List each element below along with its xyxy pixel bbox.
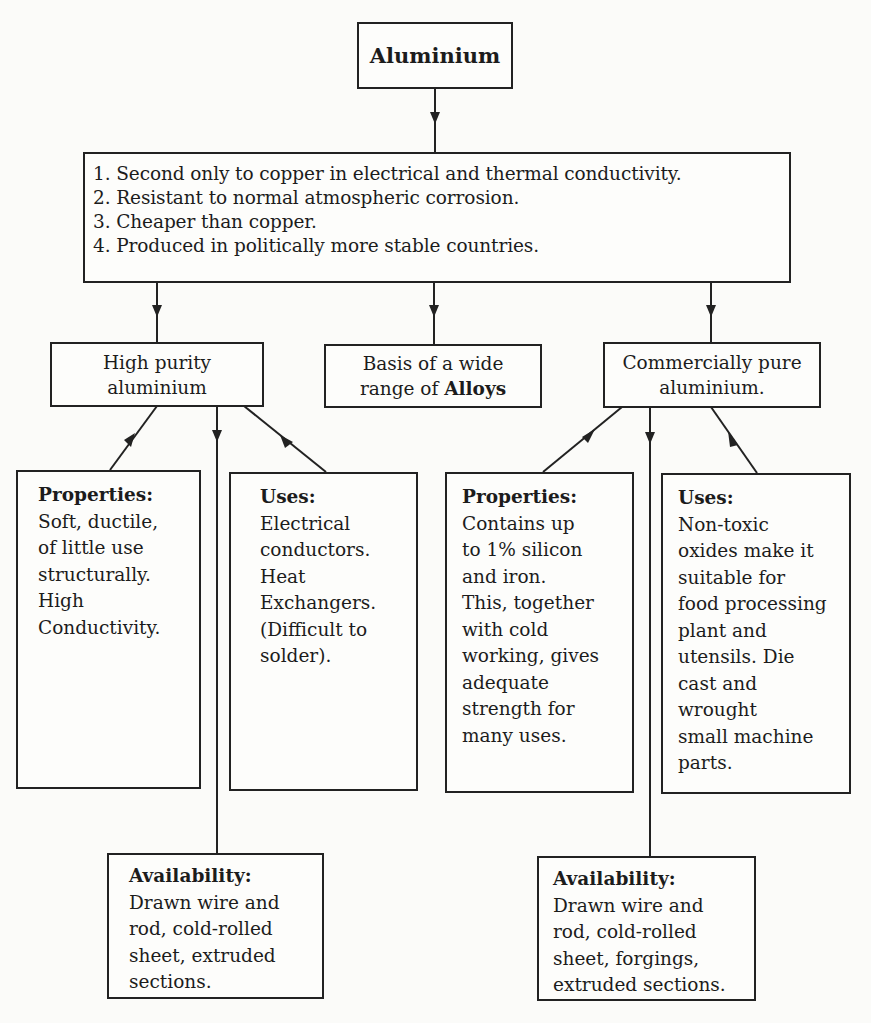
box-text-line: Electrical [260,511,416,538]
box-text-line: food processing [678,591,849,618]
box-text-line: of little use [38,535,199,562]
box-text-line: Drawn wire and [129,890,322,917]
high-purity-uses-box: Uses: Electrical conductors. Heat Exchan… [229,472,418,791]
box-text-line: working, gives [462,643,632,670]
box-text-line: Exchangers. [260,590,416,617]
characteristics-box: 1. Second only to copper in electrical a… [83,152,791,283]
box-heading: Properties: [38,482,199,509]
characteristic-item: 4. Produced in politically more stable c… [93,234,789,258]
arrowhead-icon [645,432,655,444]
box-text-line: cast and [678,671,849,698]
box-text-line: Contains up [462,511,632,538]
box-text-line: extruded sections. [553,972,754,999]
connector-cp-to-uses [711,407,757,473]
box-text-line: and iron. [462,564,632,591]
branch-alloys: Basis of a wide range of Alloys [324,344,542,408]
branch-label-line: aluminium [107,375,207,400]
commercial-availability-box: Availability: Drawn wire and rod, cold-r… [537,856,756,1001]
box-text-line: wrought [678,697,849,724]
box-text-line: strength for [462,696,632,723]
box-text-line: utensils. Die [678,644,849,671]
box-text-line: many uses. [462,723,632,750]
box-text-line: plant and [678,618,849,645]
arrowhead-icon [706,305,716,317]
box-text-line: High [38,588,199,615]
arrowhead-icon [430,112,440,124]
arrowhead-icon [152,305,162,317]
box-text-line: (Difficult to [260,617,416,644]
box-text-line: small machine [678,724,849,751]
box-text-line: sheet, extruded [129,943,322,970]
characteristic-item: 2. Resistant to normal atmospheric corro… [93,186,789,210]
box-heading: Availability: [553,866,754,893]
high-purity-availability-box: Availability: Drawn wire and rod, cold-r… [107,853,324,999]
box-text-line: Soft, ductile, [38,509,199,536]
high-purity-properties-box: Properties: Soft, ductile, of little use… [16,470,201,789]
root-node-aluminium: Aluminium [357,22,513,89]
box-heading: Availability: [129,863,322,890]
connector-cp-to-properties [543,407,622,472]
box-text-line: oxides make it [678,538,849,565]
box-text-line: Drawn wire and [553,893,754,920]
characteristic-item: 3. Cheaper than copper. [93,210,789,234]
box-text-line: sections. [129,969,322,996]
root-label: Aluminium [370,43,500,68]
box-text-line: rod, cold-rolled [553,919,754,946]
characteristic-item: 1. Second only to copper in electrical a… [93,162,789,186]
branch-label-line: range of Alloys [360,376,506,401]
box-text-line: parts. [678,750,849,777]
branch-high-purity: High purity aluminium [50,342,264,407]
box-text-line: with cold [462,617,632,644]
arrowhead-icon [212,430,222,442]
box-text-line: Non-toxic [678,512,849,539]
box-text-line: Conductivity. [38,615,199,642]
box-text-line: suitable for [678,565,849,592]
box-text-line: rod, cold-rolled [129,916,322,943]
box-text-line: Heat [260,564,416,591]
box-text-line: structurally. [38,562,199,589]
branch-label-line: Commercially pure [622,350,801,375]
box-text-line: conductors. [260,537,416,564]
branch-label-bold: Alloys [444,378,506,399]
commercial-uses-box: Uses: Non-toxic oxides make it suitable … [661,473,851,794]
box-text-line: adequate [462,670,632,697]
commercial-properties-box: Properties: Contains up to 1% silicon an… [445,472,634,793]
connector-hp-to-properties [110,406,157,470]
branch-label-line: High purity [103,350,211,375]
branch-commercially-pure: Commercially pure aluminium. [603,342,821,408]
branch-label-line: aluminium. [659,375,765,400]
box-text-line: sheet, forgings, [553,946,754,973]
branch-label-prefix: range of [360,378,444,399]
connector-hp-to-uses [244,406,326,472]
branch-label-line: Basis of a wide [363,351,504,376]
arrowhead-icon [429,305,439,317]
box-heading: Uses: [260,484,416,511]
box-heading: Uses: [678,485,849,512]
box-heading: Properties: [462,484,632,511]
box-text-line: solder). [260,643,416,670]
box-text-line: This, together [462,590,632,617]
box-text-line: to 1% silicon [462,537,632,564]
